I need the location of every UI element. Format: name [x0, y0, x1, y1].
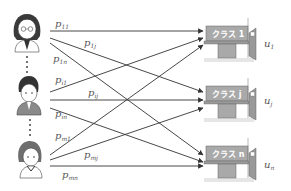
utility-uj: uj [264, 95, 272, 108]
student-m-avatar [18, 141, 42, 178]
class-n-board-label: クラス n [212, 149, 245, 159]
label-pmj: pmj [84, 149, 98, 162]
label-p1n: p1n [53, 53, 67, 65]
student-1-avatar [14, 14, 41, 52]
label-pi1: pi1 [55, 74, 67, 86]
ellipsis-dots-1 [26, 56, 28, 73]
classroom-n: クラス n un [204, 138, 274, 182]
label-pin: pin [55, 108, 67, 120]
label-pij: pij [88, 87, 98, 100]
classroom-1: クラス 1 u1 [204, 18, 274, 62]
ellipsis-dots-2 [29, 119, 31, 136]
utility-u1: u1 [264, 38, 274, 50]
utility-un: un [264, 159, 274, 171]
classroom-j: クラス j uj [204, 78, 272, 122]
assignment-diagram: p11 p1j p1n pi1 pij pin pm1 pmj pmn クラス … [0, 0, 291, 191]
label-pm1: pm1 [55, 130, 71, 142]
label-p11: p11 [55, 18, 69, 30]
edges [50, 31, 203, 166]
class-j-board-label: クラス j [212, 89, 242, 99]
label-pmn: pmn [62, 169, 78, 181]
student-i-avatar [17, 76, 41, 115]
label-p1j: p1j [84, 37, 96, 50]
class-1-board-label: クラス 1 [212, 29, 245, 39]
